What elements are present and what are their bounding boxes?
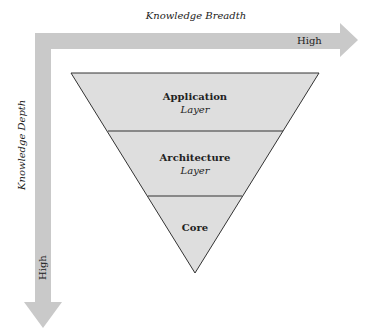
y-axis-title: Knowledge Depth (16, 100, 27, 190)
core-layer-name: Core (182, 222, 208, 233)
architecture-layer-name: Architecture (160, 152, 231, 163)
depth-arrow (24, 33, 62, 328)
y-axis-high-label: High (37, 255, 48, 280)
architecture-layer-sub: Layer (181, 165, 210, 176)
x-axis-high-label: High (297, 35, 322, 46)
application-layer-name: Application (163, 91, 227, 102)
application-layer-sub: Layer (181, 104, 210, 115)
x-axis-title: Knowledge Breadth (146, 10, 246, 21)
